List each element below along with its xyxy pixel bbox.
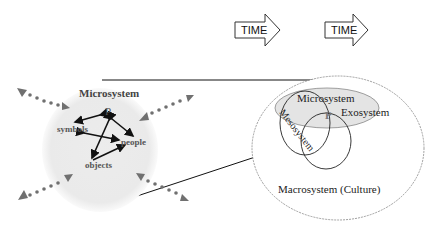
microsystem-circle (42, 88, 158, 212)
macrosystem-label: Macrosystem (Culture) (278, 183, 380, 195)
person-label: P (105, 105, 111, 117)
time-label-1: TIME (241, 24, 267, 36)
people-label: people (121, 137, 146, 147)
dotted-arrow-top-right (139, 95, 194, 121)
objects-label: objects (85, 160, 112, 170)
symbols-label: symbols (57, 124, 88, 134)
microsystem-title: Microsystem (79, 87, 139, 99)
right-microsystem-label: Microsystem (297, 92, 354, 104)
exosystem-label: Exosystem (341, 106, 389, 118)
dotted-arrow-top-left (17, 88, 70, 110)
right-person-label: P (325, 109, 332, 121)
time-label-2: TIME (331, 24, 357, 36)
